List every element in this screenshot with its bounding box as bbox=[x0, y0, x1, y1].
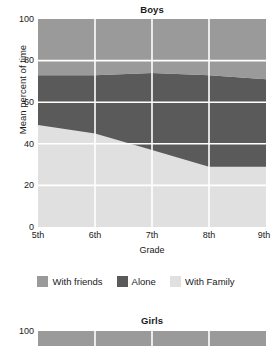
legend: With friends Alone With Family bbox=[0, 272, 272, 290]
legend-swatch-with-family bbox=[170, 276, 181, 287]
legend-item-with-friends: With friends bbox=[37, 276, 102, 287]
x-tick-7th: 7th bbox=[132, 231, 172, 240]
y-tick-20: 20 bbox=[0, 181, 34, 190]
y-tick-40: 40 bbox=[0, 140, 34, 149]
x-tick-9th: 9th bbox=[244, 231, 272, 240]
x-tick-5th: 5th bbox=[18, 231, 58, 240]
plot-area-girls bbox=[38, 331, 266, 346]
y-tick-80: 80 bbox=[0, 56, 34, 65]
legend-label-alone: Alone bbox=[132, 276, 156, 287]
chart-title-boys: Boys bbox=[38, 4, 266, 15]
x-tick-6th: 6th bbox=[75, 231, 115, 240]
stacked-area-svg-boys bbox=[38, 19, 266, 227]
stacked-area-svg-girls bbox=[38, 331, 266, 346]
x-tick-8th: 8th bbox=[189, 231, 229, 240]
legend-swatch-with-friends bbox=[37, 276, 48, 287]
y-tick-girls-100: 100 bbox=[0, 327, 34, 336]
plot-area-boys bbox=[38, 19, 266, 227]
legend-label-with-friends: With friends bbox=[52, 276, 102, 287]
legend-item-alone: Alone bbox=[117, 276, 156, 287]
y-tick-100: 100 bbox=[0, 15, 34, 24]
legend-swatch-alone bbox=[117, 276, 128, 287]
figure-boys: Boys Mean percent of time 100 80 60 40 2… bbox=[0, 0, 272, 262]
figure-girls: Girls 100 bbox=[0, 310, 272, 346]
x-axis-label: Grade bbox=[38, 245, 266, 255]
y-tick-60: 60 bbox=[0, 98, 34, 107]
chart-title-girls: Girls bbox=[38, 315, 266, 326]
legend-item-with-family: With Family bbox=[170, 276, 235, 287]
legend-label-with-family: With Family bbox=[185, 276, 235, 287]
